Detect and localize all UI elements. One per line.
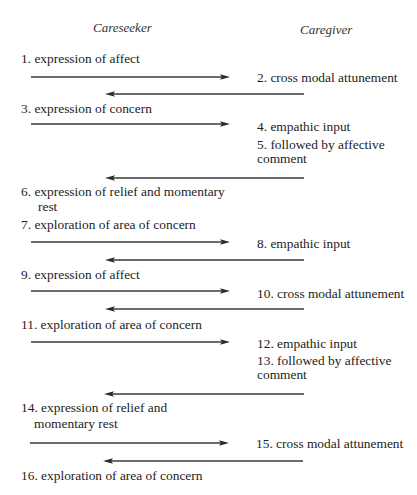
caregiver-step-12: 12. empathic input <box>257 336 357 351</box>
right-arrow-icon <box>30 440 229 446</box>
caregiver-step-2: 2. cross modal attunement <box>257 70 398 85</box>
left-arrow-icon <box>105 306 304 312</box>
careseeker-step-11: 11. exploration of area of concern <box>21 317 202 332</box>
left-arrow-icon <box>105 91 304 97</box>
left-arrow-icon <box>105 257 304 263</box>
careseeker-step-7: 7. exploration of area of concern <box>21 217 196 232</box>
careseeker-step-3: 3. expression of concern <box>21 101 152 116</box>
right-arrow-icon <box>31 288 230 294</box>
caregiver-step-10: 10. cross modal attunement <box>257 286 404 301</box>
caregiver-step-5-continued: comment <box>257 151 307 166</box>
careseeker-step-9: 9. expression of affect <box>21 267 140 282</box>
right-arrow-icon <box>31 239 230 245</box>
careseeker-step-1: 1. expression of affect <box>21 51 140 66</box>
left-arrow-icon <box>105 175 304 181</box>
right-arrow-icon <box>31 121 230 127</box>
left-arrow-icon <box>103 458 303 464</box>
right-arrow-icon <box>31 339 230 345</box>
caregiver-step-8: 8. empathic input <box>257 236 350 251</box>
careseeker-step-6-continued: rest <box>38 199 57 214</box>
caregiver-step-4: 4. empathic input <box>257 119 350 134</box>
caregiver-step-15: 15. cross modal attunement <box>256 436 403 451</box>
careseeker-step-6: 6. expression of relief and momentary <box>21 184 225 199</box>
left-arrow-icon <box>104 391 304 397</box>
careseeker-step-16: 16. exploration of area of concern <box>21 468 202 483</box>
careseeker-step-14: 14. expression of relief and <box>21 400 167 415</box>
right-arrow-icon <box>31 74 230 80</box>
caregiver-step-13-continued: comment <box>257 367 307 382</box>
caregiver-step-13: 13. followed by affective <box>257 353 391 368</box>
careseeker-caregiver-interaction-diagram: Careseeker Caregiver 1. expression of af… <box>0 0 417 495</box>
caregiver-step-5: 5. followed by affective <box>257 137 385 152</box>
careseeker-step-14-continued: momentary rest <box>34 416 118 431</box>
